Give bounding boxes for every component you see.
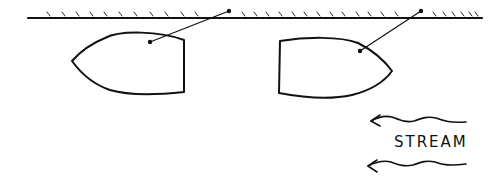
stream-label: STREAM — [394, 133, 468, 151]
right-boat-hull — [279, 38, 392, 98]
right-boat-attachment-dot — [358, 49, 362, 53]
left-boat-attachment-dot — [148, 40, 152, 44]
stream-arrow-bottom — [368, 160, 466, 172]
left-mooring-line — [150, 11, 229, 42]
left-anchor-point-dot — [227, 9, 231, 13]
stream-arrow-top — [371, 115, 466, 126]
left-boat-hull — [72, 33, 184, 94]
right-anchor-point-dot — [419, 9, 423, 13]
diagram-canvas — [0, 0, 500, 182]
